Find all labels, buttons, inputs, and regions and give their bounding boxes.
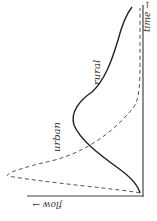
hydrograph-sketch: urban rural time → flow → <box>0 0 157 221</box>
rural-label: rural <box>91 60 102 85</box>
urban-curve <box>7 8 140 193</box>
rural-curve <box>73 7 140 193</box>
time-axis-label: time → <box>142 1 152 32</box>
chart-svg: urban rural time → flow → <box>0 0 157 221</box>
urban-label: urban <box>51 122 62 152</box>
flow-axis-label: flow → <box>32 200 63 210</box>
